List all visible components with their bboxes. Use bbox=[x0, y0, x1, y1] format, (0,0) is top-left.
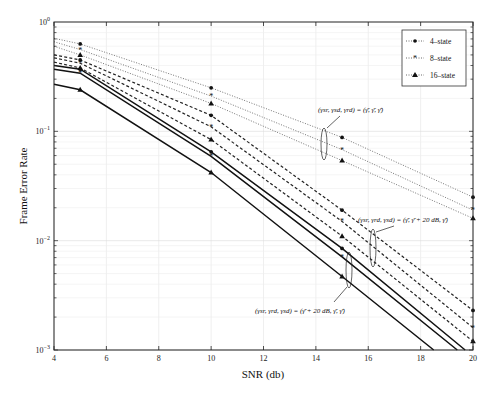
y-axis-label: Frame Error Rate bbox=[17, 147, 29, 224]
legend: 4–state * 8–state 16–state bbox=[402, 30, 466, 86]
triangle-marker-icon bbox=[339, 158, 345, 163]
star-marker-icon: * bbox=[340, 253, 344, 262]
x-tick-label: 8 bbox=[157, 354, 161, 363]
x-tick-label: 6 bbox=[104, 354, 108, 363]
annotation-sr-plus20: (γsr, γrd, γsd) = (γ̄ + 20 dB, γ̄, γ̄) bbox=[255, 252, 352, 315]
triangle-marker-icon bbox=[208, 100, 214, 105]
y-tick-label: 10−1 bbox=[36, 125, 50, 136]
star-marker-icon: * bbox=[340, 146, 344, 155]
y-tick-label: 10−2 bbox=[36, 235, 50, 246]
x-tick-label: 4 bbox=[52, 354, 56, 363]
x-tick-label: 14 bbox=[312, 354, 320, 363]
circle-marker-icon bbox=[209, 113, 213, 117]
circle-marker-icon bbox=[340, 136, 344, 140]
star-marker-icon: * bbox=[340, 217, 344, 226]
x-tick-label: 10 bbox=[207, 354, 215, 363]
y-tick-label: 100 bbox=[39, 16, 50, 27]
legend-label-8-state: 8–state bbox=[430, 54, 452, 63]
annotation-equal-snr: (γsr, γsd, γrd) = (γ̄, γ̄, γ̄) bbox=[318, 106, 384, 160]
y-tick-label: 10−3 bbox=[36, 344, 50, 355]
circle-marker-icon bbox=[413, 39, 417, 43]
x-tick-label: 16 bbox=[364, 354, 372, 363]
legend-label-16-state: 16–state bbox=[430, 71, 456, 80]
annotation-text: (γsr, γrd, γsd) = (γ̄ + 20 dB, γ̄, γ̄) bbox=[255, 307, 345, 315]
star-marker-icon: * bbox=[209, 123, 213, 132]
star-marker-icon: * bbox=[209, 92, 213, 101]
x-tick-label: 20 bbox=[469, 354, 477, 363]
frame-error-rate-chart: *********** 46810121416182010010−110−210… bbox=[0, 0, 498, 396]
x-tick-label: 18 bbox=[417, 354, 425, 363]
circle-marker-icon bbox=[340, 246, 344, 250]
star-marker-icon: * bbox=[209, 152, 213, 161]
star-marker-icon: * bbox=[78, 69, 82, 78]
star-marker-icon: * bbox=[413, 54, 417, 63]
legend-label-4-state: 4–state bbox=[430, 37, 452, 46]
x-axis-label: SNR (db) bbox=[242, 368, 285, 381]
circle-marker-icon bbox=[340, 208, 344, 212]
annotation-text: (γsr, γrd, γsd) = (γ̄, γ̄ + 20 dB, γ̄) bbox=[358, 216, 448, 224]
circle-marker-icon bbox=[209, 86, 213, 90]
annotation-text: (γsr, γsd, γrd) = (γ̄, γ̄, γ̄) bbox=[318, 106, 384, 114]
triangle-marker-icon bbox=[339, 233, 345, 238]
x-tick-label: 12 bbox=[260, 354, 268, 363]
